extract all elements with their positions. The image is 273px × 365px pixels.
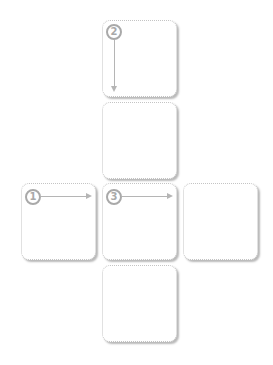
step-number-3: 3	[106, 189, 122, 205]
arrow-right-icon	[167, 193, 173, 199]
arrow-right-icon	[86, 193, 92, 199]
box-left: 1	[21, 183, 96, 260]
box-center: 3	[102, 183, 177, 260]
arrow-down-icon	[111, 86, 117, 92]
box-bottom	[102, 265, 177, 342]
box-right	[183, 183, 258, 260]
box-top: 2	[102, 20, 177, 97]
box-upper-middle	[102, 102, 177, 179]
arrow-right-line	[41, 196, 87, 197]
arrow-right-line	[122, 196, 168, 197]
arrow-down-line	[114, 40, 115, 87]
step-number-1: 1	[25, 189, 41, 205]
step-number-2: 2	[106, 24, 122, 40]
